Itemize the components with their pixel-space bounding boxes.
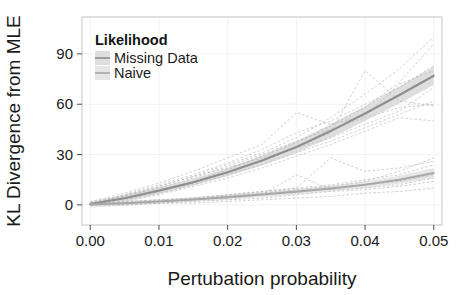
x-tick-label-2: 0.02 [213,232,242,249]
y-tick-label-1: 30 [56,146,73,163]
x-tick-label-4: 0.04 [350,232,379,249]
x-tick-label-3: 0.03 [282,232,311,249]
kl-divergence-line-chart: 0.000.010.020.030.040.05 0306090 Pertuba… [0,0,461,295]
y-tick-label-0: 0 [65,196,73,213]
y-tick-label-3: 90 [56,45,73,62]
chart-figure: 0.000.010.020.030.040.05 0306090 Pertuba… [0,0,461,295]
legend-entry-naive[interactable]: Naive [95,65,151,81]
x-tick-label-5: 0.05 [419,232,448,249]
x-axis-title: Pertubation probability [167,268,357,289]
legend-label-missing-data: Missing Data [114,50,199,66]
y-axis-title: KL Divergence from MLE [3,15,24,227]
legend-label-naive: Naive [114,65,151,81]
x-tick-label-0: 0.00 [76,232,105,249]
x-tick-label-1: 0.01 [144,232,173,249]
legend-title: Likelihood [95,32,168,48]
y-tick-label-2: 60 [56,95,73,112]
